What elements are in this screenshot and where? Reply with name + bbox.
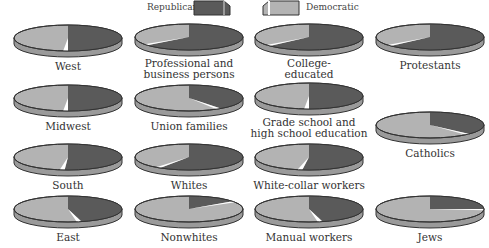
pie-label-whitecollar: White-collar workers [239,180,379,191]
pie-label-west: West [0,61,138,72]
pie-professional [133,22,245,58]
pie-college [253,22,365,58]
pie-jews [374,194,486,230]
pie-label-nonwhites: Nonwhites [119,232,259,243]
pie-label-gradeschool: Grade school andhigh school education [239,117,379,139]
pie-protestants [374,22,486,58]
pie-midwest [12,83,124,119]
legend-label-democratic: Democratic [306,2,359,12]
pie-south [12,142,124,178]
pie-label-union: Union families [119,121,259,132]
republican-swatch-icon [193,0,231,16]
pie-label-protestants: Protestants [360,60,489,71]
pie-west [12,23,124,59]
pie-east [12,194,124,230]
pie-union [133,83,245,119]
pie-whites [133,142,245,178]
pie-label-east: East [0,232,138,243]
democratic-swatch-icon [262,0,300,16]
pie-label-south: South [0,180,138,191]
pie-nonwhites [133,194,245,230]
pie-label-whites: Whites [119,180,259,191]
pie-manual [253,194,365,230]
pie-label-college: College-educated [239,58,379,80]
pie-label-professional: Professional andbusiness persons [119,58,259,80]
pie-label-jews: Jews [360,232,489,243]
pie-label-catholics: Catholics [360,148,489,159]
legend-label-republican: Republican [147,2,198,12]
pie-gradeschool [253,81,365,117]
pie-label-manual: Manual workers [239,232,379,243]
pie-catholics [374,110,486,146]
chart-legend: Republican Democratic [0,0,489,18]
pie-whitecollar [253,142,365,178]
pie-label-midwest: Midwest [0,121,138,132]
